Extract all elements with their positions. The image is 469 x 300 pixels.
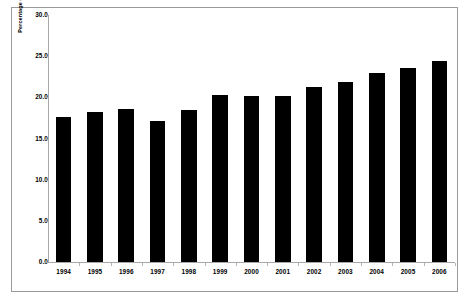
y-axis-tick-label: 5.0 — [14, 217, 48, 224]
bar — [56, 117, 72, 262]
bar — [150, 121, 166, 262]
x-axis-tick-mark — [79, 263, 80, 266]
x-axis-tick-label: 1994 — [48, 268, 79, 276]
x-axis-tick-label: 2005 — [392, 268, 423, 276]
bar — [306, 87, 322, 262]
bar — [369, 73, 385, 262]
x-axis-tick-label: 2004 — [361, 268, 392, 276]
x-axis-tick-mark — [361, 263, 362, 266]
x-axis-tick-label: 1999 — [205, 268, 236, 276]
bars-layer — [48, 15, 455, 262]
y-axis-tick: 0.0 — [0, 258, 48, 266]
x-axis-tick-label: 2006 — [424, 268, 455, 276]
bar — [181, 110, 197, 262]
y-axis-tick-label: 25.0 — [14, 52, 48, 59]
y-axis-tick-label: 20.0 — [14, 93, 48, 100]
x-axis-tick-mark — [173, 263, 174, 266]
x-axis-tick-mark — [111, 263, 112, 266]
x-axis-tick-label: 1997 — [142, 268, 173, 276]
x-axis-tick-label: 1998 — [173, 268, 204, 276]
x-axis-tick-mark — [392, 263, 393, 266]
y-axis-tick: 5.0 — [0, 217, 48, 225]
x-axis-tick-mark — [455, 263, 456, 266]
x-axis-tick-mark — [142, 263, 143, 266]
y-axis-tick-label: 0.0 — [14, 258, 48, 265]
x-axis-tick-mark — [298, 263, 299, 266]
x-axis-tick-label: 2002 — [298, 268, 329, 276]
x-axis-tick-label: 2000 — [236, 268, 267, 276]
bar — [244, 96, 260, 262]
y-axis-tick-label: 30.0 — [14, 11, 48, 18]
x-axis-tick-mark — [330, 263, 331, 266]
bar — [275, 96, 291, 262]
figure: Percentage of total trips 0.05.010.015.0… — [0, 0, 469, 300]
x-axis-tick-mark — [267, 263, 268, 266]
bar — [87, 112, 103, 262]
y-axis-tick-label: 10.0 — [14, 176, 48, 183]
x-axis-tick-label: 1995 — [79, 268, 110, 276]
bar — [432, 61, 448, 262]
bar — [338, 82, 354, 262]
y-axis-tick: 25.0 — [0, 52, 48, 60]
y-axis-tick-label: 15.0 — [14, 135, 48, 142]
bar — [212, 95, 228, 262]
x-axis-line — [48, 262, 455, 263]
x-axis-tick-mark — [236, 263, 237, 266]
x-axis-tick-label: 2003 — [330, 268, 361, 276]
x-axis-tick-mark — [205, 263, 206, 266]
y-axis-tick-mark — [44, 262, 48, 263]
y-axis-tick: 30.0 — [0, 11, 48, 19]
x-axis-tick-label: 2001 — [267, 268, 298, 276]
y-axis-tick: 10.0 — [0, 176, 48, 184]
y-axis-tick: 20.0 — [0, 93, 48, 101]
x-axis-tick-mark — [424, 263, 425, 266]
y-axis-tick: 15.0 — [0, 135, 48, 143]
bar — [400, 68, 416, 262]
bar — [118, 109, 134, 262]
x-axis-tick-label: 1996 — [111, 268, 142, 276]
